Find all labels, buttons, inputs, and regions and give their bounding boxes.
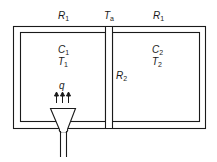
label-sub: 1 bbox=[65, 15, 69, 22]
label-ta: Ta bbox=[104, 11, 114, 24]
label-t1: T1 bbox=[58, 57, 68, 70]
label-sub: a bbox=[110, 15, 114, 22]
heat-flow-arrows-icon bbox=[55, 92, 71, 103]
label-r1-left: R1 bbox=[58, 11, 69, 24]
label-t2: T2 bbox=[152, 57, 162, 70]
label-main: q bbox=[59, 80, 65, 91]
label-sub: 2 bbox=[158, 61, 162, 68]
diagram-canvas bbox=[0, 0, 217, 162]
label-r2: R2 bbox=[116, 71, 127, 84]
label-sub: 1 bbox=[65, 49, 69, 56]
label-r1-right: R1 bbox=[153, 11, 164, 24]
label-sub: 2 bbox=[159, 49, 163, 56]
label-sub: 2 bbox=[123, 75, 127, 82]
label-sub: 1 bbox=[160, 15, 164, 22]
partition-wall-fill bbox=[106, 27, 112, 128]
label-q: q bbox=[59, 81, 65, 91]
heater-icon bbox=[51, 109, 76, 158]
label-sub: 1 bbox=[64, 61, 68, 68]
